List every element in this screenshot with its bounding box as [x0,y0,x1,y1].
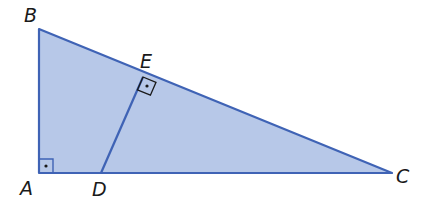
label-d: D [92,178,107,200]
triangle-diagram: B E A D C [0,0,428,209]
triangle-abc [39,29,392,173]
label-c: C [396,165,410,187]
label-b: B [24,4,37,26]
label-e: E [140,50,152,72]
diagram-canvas: B E A D C [0,0,428,209]
label-a: A [18,177,33,199]
